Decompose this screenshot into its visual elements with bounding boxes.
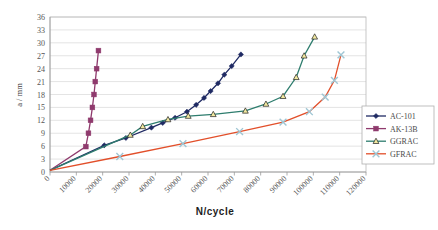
x-tick-label: 30000 [110, 174, 131, 195]
y-tick-label: 24 [37, 65, 45, 74]
series-line [50, 54, 241, 170]
y-axis-tick-labels: 0369121518212427303336 [37, 13, 45, 177]
chart-figure: 0369121518212427303336 01000020000300004… [0, 0, 438, 230]
y-tick-label: 30 [37, 39, 45, 48]
y-tick-label: 6 [41, 142, 45, 151]
series-marker [93, 79, 98, 84]
series-marker [83, 144, 88, 149]
x-tick-label: 40000 [136, 174, 157, 195]
chart-legend[interactable]: AC-101AK-13BGGRACGFRAC [362, 106, 434, 164]
y-tick-label: 33 [37, 26, 45, 35]
data-series-layer [50, 34, 344, 170]
x-tick-label: 120000 [344, 174, 367, 197]
series-marker [90, 105, 95, 110]
x-tick-label: 100000 [291, 174, 314, 197]
y-tick-label: 18 [37, 91, 45, 100]
y-axis-title-text: a / mm [14, 83, 24, 107]
x-tick-label: 10000 [57, 174, 78, 195]
legend-label: AK-13B [390, 125, 418, 134]
series-ggrac [50, 34, 318, 170]
x-axis-title: N/cycle [196, 206, 235, 217]
y-tick-label: 12 [37, 116, 45, 125]
series-marker [92, 92, 97, 97]
series-marker [94, 66, 99, 71]
x-tick-label: 70000 [215, 174, 236, 195]
x-axis-tick-labels: 0100002000030000400005000060000700008000… [42, 174, 367, 197]
series-marker [149, 125, 154, 130]
x-tick-label: 80000 [242, 174, 263, 195]
legend-marker-square-icon [374, 126, 379, 131]
chart-canvas: 0369121518212427303336 01000020000300004… [0, 0, 438, 230]
x-axis-title-text: N/cycle [196, 206, 235, 217]
y-axis-title: a / mm [14, 83, 24, 107]
x-tick-label: 50000 [163, 174, 184, 195]
y-tick-label: 27 [37, 52, 45, 61]
x-tick-label: 60000 [189, 174, 210, 195]
x-tick-label: 20000 [84, 174, 105, 195]
series-marker [88, 118, 93, 123]
x-tick-label: 110000 [318, 174, 341, 197]
y-tick-label: 3 [41, 155, 45, 164]
series-marker [86, 131, 91, 136]
y-tick-label: 36 [37, 13, 45, 22]
legend-label: AC-101 [390, 112, 416, 121]
series-line [50, 37, 315, 170]
y-tick-label: 9 [41, 129, 45, 138]
legend-label: GGRAC [390, 137, 418, 146]
series-marker [312, 34, 318, 39]
series-marker [96, 48, 101, 53]
y-tick-label: 15 [37, 103, 45, 112]
series-marker [293, 74, 299, 79]
series-marker [301, 53, 307, 58]
series-marker [127, 132, 133, 137]
legend-label: GFRAC [390, 150, 417, 159]
series-line [50, 55, 341, 170]
series-ac-101 [50, 52, 244, 170]
x-tick-label: 90000 [268, 174, 289, 195]
y-tick-label: 21 [37, 78, 45, 87]
